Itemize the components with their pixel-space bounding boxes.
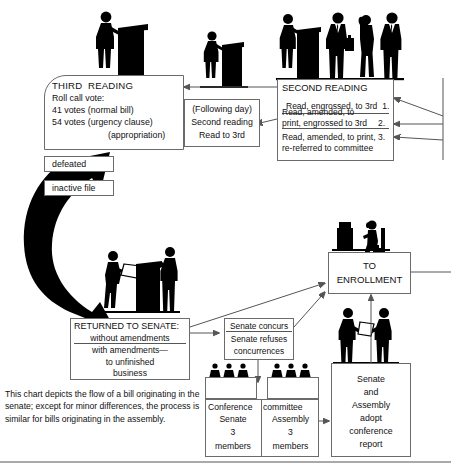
box-conference-seat-assembly [267, 377, 319, 399]
third-reading-line-1: 41 votes (normal bill) [52, 105, 134, 116]
following-day-line-2: Read to 3rd [184, 130, 260, 141]
conference-committee-title-right: committee [263, 402, 303, 412]
second-reading-option-3[interactable]: Read, amended, to print, re-referred to … [282, 132, 389, 153]
conference-senate-count: 3 [205, 427, 261, 437]
to-enrollment-line-1: ENROLLMENT [328, 274, 411, 286]
conference-senate-unit: members [205, 441, 261, 451]
standing-legislators-silhouette [276, 12, 404, 80]
box-conference-seat-senate [205, 377, 257, 399]
second-reading-option-2-number: 2. [378, 118, 385, 128]
adopt-report-line-0: Senate [331, 374, 411, 385]
second-reading-heading: SECOND READING [282, 82, 367, 93]
third-reading-heading: THIRD READING [52, 80, 133, 92]
defeated-label: defeated [52, 159, 86, 170]
senate-concurs-line-0: Senate concurs [226, 321, 292, 332]
conference-assembly-chamber: Assembly [262, 414, 319, 424]
podium-speaker-silhouette-middle [200, 31, 248, 88]
adopt-report-line-1: and [331, 387, 411, 398]
adopt-report-line-2: Assembly [331, 400, 411, 411]
following-day-line-1: Second reading [184, 117, 260, 128]
third-reading-line-3: (appropriation) [108, 130, 165, 141]
conference-assembly-unit: members [262, 441, 319, 451]
senate-concurs-line-2: concurrences [226, 346, 292, 356]
second-reading-option-2[interactable]: Read, amended, to print, engrossed to 3r… [282, 107, 389, 129]
box-to-enrollment[interactable] [328, 252, 411, 294]
arrow-concurs-to-enrollment [294, 292, 325, 327]
second-reading-option-3-text: Read, amended, to print, re-referred to … [282, 132, 389, 153]
inactive-file-label: inactive file [52, 183, 96, 194]
senate-concurs-line-1: Senate refuses [226, 334, 292, 344]
flowchart-canvas: THIRD READING Roll call vote: 41 votes (… [0, 0, 451, 469]
podium-speaker-silhouette-top-left [95, 12, 150, 81]
returned-to-senate-line-1: with amendments— [74, 345, 186, 355]
third-reading-line-0: Roll call vote: [52, 93, 104, 104]
adopt-report-line-4: conference [331, 426, 411, 437]
chart-caption: This chart depicts the flow of a bill or… [5, 388, 210, 425]
conference-senate-chamber: Senate [205, 414, 261, 424]
handshake-silhouette [333, 308, 399, 364]
returned-to-senate-heading: RETURNED TO SENATE: [74, 321, 179, 332]
third-reading-line-2: 54 votes (urgency clause) [52, 117, 153, 128]
second-reading-option-3-number: 3. [378, 132, 385, 142]
adopt-report-line-5: report [331, 439, 411, 450]
conference-committee-title-left: Conference [208, 402, 252, 412]
returned-to-senate-line-2: to unfinished [74, 357, 186, 367]
arrow-in-option3 [394, 137, 443, 140]
adopt-report-line-3: adopt [331, 413, 411, 424]
to-enrollment-line-0: TO [328, 260, 411, 272]
bill-carrier-silhouette [96, 247, 180, 313]
returned-to-senate-line-0: without amendments [74, 333, 186, 344]
following-day-line-0: (Following day) [184, 104, 260, 115]
arrow-in-option1 [394, 98, 443, 116]
second-reading-option-2-text: Read, amended, to print, engrossed to 3r… [282, 107, 389, 128]
conference-assembly-count: 3 [262, 427, 319, 437]
returned-to-senate-line-3: business [74, 368, 186, 378]
